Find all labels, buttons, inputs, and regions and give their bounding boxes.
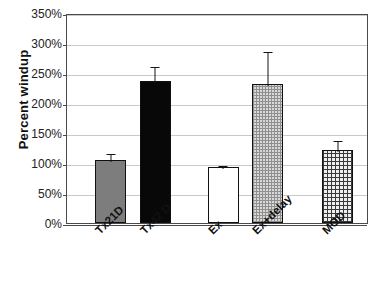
error-bar-cap <box>151 67 160 68</box>
bar-series <box>67 15 367 223</box>
x-label-ex: Ex <box>206 228 214 236</box>
plot-area <box>66 14 368 224</box>
y-tick-label: 100% <box>14 158 62 170</box>
bar-tx42-d[interactable] <box>140 81 171 223</box>
x-label-tx42-d: Tx42 D <box>138 228 146 236</box>
y-tick-label: 250% <box>14 68 62 80</box>
error-bar-whisker <box>267 52 268 87</box>
x-label-ex-delay: Ex+delay <box>250 228 258 236</box>
y-tick-label: 50% <box>14 188 62 200</box>
x-axis-category-labels: Tx21DTx42 DExEx+delayMOD <box>66 224 368 282</box>
error-bar-cap <box>219 166 228 167</box>
y-tick-label: 150% <box>14 128 62 140</box>
error-bar-whisker <box>337 141 338 152</box>
error-bar-whisker <box>155 67 156 83</box>
x-label-tx21d: Tx21D <box>93 228 101 236</box>
bar-slot <box>208 15 239 223</box>
y-tick-label: 350% <box>14 8 62 20</box>
bar-slot <box>322 15 353 223</box>
y-tick-label: 0% <box>14 218 62 230</box>
x-label-mod: MOD <box>320 228 328 236</box>
error-bar-whisker <box>110 154 111 162</box>
bar-chart: Percent windup 0%50%100%150%200%250%300%… <box>0 0 379 282</box>
error-bar-cap <box>263 52 272 53</box>
y-tick-label: 300% <box>14 38 62 50</box>
bar-ex[interactable] <box>208 167 239 223</box>
y-tick-label: 200% <box>14 98 62 110</box>
y-axis-tick-labels: 0%50%100%150%200%250%300%350% <box>10 0 62 282</box>
error-bar-cap <box>106 154 115 155</box>
bar-slot <box>252 15 283 223</box>
bar-slot <box>140 15 171 223</box>
bar-slot <box>95 15 126 223</box>
error-bar-cap <box>333 141 342 142</box>
